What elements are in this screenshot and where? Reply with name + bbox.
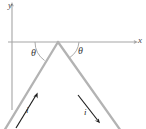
x-axis-label: x xyxy=(138,36,142,45)
wire-right-leg xyxy=(58,42,121,129)
angle-label-theta-right: θ xyxy=(78,46,83,56)
current-label-left: i xyxy=(26,106,29,115)
y-axis-label: y xyxy=(8,1,12,10)
physics-figure: y x θ θ i i xyxy=(0,0,146,129)
angle-label-theta-left: θ xyxy=(31,48,36,58)
current-label-right: i xyxy=(84,108,87,117)
figure-canvas xyxy=(0,0,146,129)
current-arrow-right xyxy=(78,95,100,123)
angle-arc-left xyxy=(35,42,45,61)
